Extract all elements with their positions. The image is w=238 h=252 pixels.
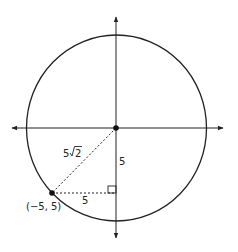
point-label: (−5, 5) [26,201,61,212]
point-dot [49,190,55,196]
hypotenuse-radicand: 2 [75,148,81,159]
origin-dot [113,125,119,131]
vertical-leg-label: 5 [119,156,125,167]
right-angle-marker [108,186,116,193]
horizontal-leg-label: 5 [82,195,88,206]
coordinate-diagram: (−5, 5) 5 2 5 5 [0,0,238,252]
hypotenuse-label: 5 2 [63,147,82,160]
hypotenuse-dashed [52,128,116,193]
hypotenuse-coefficient: 5 [63,148,69,159]
